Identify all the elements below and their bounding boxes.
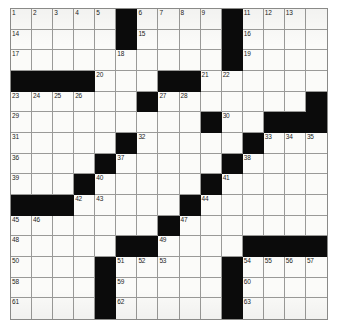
grid-open-cell[interactable] [137, 298, 158, 319]
grid-open-cell[interactable] [137, 50, 158, 71]
grid-open-cell[interactable]: 8 [180, 9, 201, 30]
grid-open-cell[interactable] [137, 278, 158, 299]
grid-open-cell[interactable] [201, 154, 222, 175]
grid-open-cell[interactable] [158, 154, 179, 175]
grid-open-cell[interactable] [306, 50, 327, 71]
grid-open-cell[interactable] [201, 236, 222, 257]
grid-open-cell[interactable] [285, 278, 306, 299]
grid-open-cell[interactable] [285, 195, 306, 216]
grid-open-cell[interactable] [158, 30, 179, 51]
grid-open-cell[interactable] [74, 216, 95, 237]
grid-open-cell[interactable]: 53 [158, 257, 179, 278]
grid-open-cell[interactable] [264, 30, 285, 51]
grid-open-cell[interactable]: 56 [285, 257, 306, 278]
grid-open-cell[interactable] [306, 298, 327, 319]
grid-open-cell[interactable] [180, 30, 201, 51]
grid-open-cell[interactable] [158, 195, 179, 216]
grid-open-cell[interactable] [285, 30, 306, 51]
grid-open-cell[interactable] [306, 30, 327, 51]
grid-open-cell[interactable] [243, 71, 264, 92]
grid-open-cell[interactable] [116, 112, 137, 133]
grid-open-cell[interactable] [32, 154, 53, 175]
grid-open-cell[interactable]: 3 [53, 9, 74, 30]
grid-open-cell[interactable]: 7 [158, 9, 179, 30]
grid-open-cell[interactable] [243, 92, 264, 113]
grid-open-cell[interactable] [53, 298, 74, 319]
grid-open-cell[interactable]: 18 [116, 50, 137, 71]
grid-open-cell[interactable] [74, 50, 95, 71]
grid-open-cell[interactable]: 43 [95, 195, 116, 216]
grid-open-cell[interactable] [243, 112, 264, 133]
grid-open-cell[interactable]: 50 [11, 257, 32, 278]
grid-open-cell[interactable]: 29 [11, 112, 32, 133]
grid-open-cell[interactable] [180, 50, 201, 71]
grid-open-cell[interactable]: 36 [11, 154, 32, 175]
grid-open-cell[interactable] [201, 92, 222, 113]
grid-open-cell[interactable]: 42 [74, 195, 95, 216]
grid-open-cell[interactable]: 58 [11, 278, 32, 299]
grid-open-cell[interactable]: 63 [243, 298, 264, 319]
grid-open-cell[interactable] [53, 257, 74, 278]
grid-open-cell[interactable] [264, 154, 285, 175]
grid-open-cell[interactable]: 11 [243, 9, 264, 30]
grid-open-cell[interactable]: 20 [95, 71, 116, 92]
grid-open-cell[interactable] [264, 50, 285, 71]
grid-open-cell[interactable]: 51 [116, 257, 137, 278]
grid-open-cell[interactable] [32, 257, 53, 278]
grid-open-cell[interactable] [74, 30, 95, 51]
grid-open-cell[interactable]: 59 [116, 278, 137, 299]
grid-open-cell[interactable]: 55 [264, 257, 285, 278]
grid-open-cell[interactable] [32, 278, 53, 299]
grid-open-cell[interactable] [95, 216, 116, 237]
grid-open-cell[interactable] [32, 298, 53, 319]
grid-open-cell[interactable]: 40 [95, 174, 116, 195]
grid-open-cell[interactable]: 60 [243, 278, 264, 299]
grid-open-cell[interactable] [116, 174, 137, 195]
grid-open-cell[interactable] [116, 71, 137, 92]
grid-open-cell[interactable] [53, 30, 74, 51]
grid-open-cell[interactable] [222, 236, 243, 257]
grid-open-cell[interactable] [137, 112, 158, 133]
grid-open-cell[interactable]: 61 [11, 298, 32, 319]
grid-open-cell[interactable]: 28 [180, 92, 201, 113]
grid-open-cell[interactable] [201, 278, 222, 299]
crossword-grid[interactable]: 1234567891112131415161718192021222324252… [11, 9, 327, 319]
grid-open-cell[interactable] [116, 216, 137, 237]
grid-open-cell[interactable]: 16 [243, 30, 264, 51]
grid-open-cell[interactable] [222, 133, 243, 154]
grid-open-cell[interactable] [74, 257, 95, 278]
grid-open-cell[interactable] [201, 257, 222, 278]
grid-open-cell[interactable] [158, 174, 179, 195]
grid-open-cell[interactable] [222, 216, 243, 237]
grid-open-cell[interactable] [116, 92, 137, 113]
grid-open-cell[interactable] [264, 298, 285, 319]
grid-open-cell[interactable]: 2 [32, 9, 53, 30]
grid-open-cell[interactable] [53, 133, 74, 154]
grid-open-cell[interactable]: 38 [243, 154, 264, 175]
grid-open-cell[interactable] [116, 195, 137, 216]
grid-open-cell[interactable] [180, 112, 201, 133]
grid-open-cell[interactable] [306, 71, 327, 92]
grid-open-cell[interactable]: 24 [32, 92, 53, 113]
grid-open-cell[interactable] [32, 133, 53, 154]
grid-open-cell[interactable] [53, 236, 74, 257]
grid-open-cell[interactable]: 37 [116, 154, 137, 175]
grid-open-cell[interactable] [264, 71, 285, 92]
grid-open-cell[interactable] [201, 30, 222, 51]
grid-open-cell[interactable] [306, 154, 327, 175]
grid-open-cell[interactable]: 35 [306, 133, 327, 154]
grid-open-cell[interactable]: 39 [11, 174, 32, 195]
grid-open-cell[interactable]: 14 [11, 30, 32, 51]
grid-open-cell[interactable]: 12 [264, 9, 285, 30]
grid-open-cell[interactable] [32, 30, 53, 51]
grid-open-cell[interactable] [137, 216, 158, 237]
grid-open-cell[interactable]: 31 [11, 133, 32, 154]
grid-open-cell[interactable]: 23 [11, 92, 32, 113]
grid-open-cell[interactable]: 5 [95, 9, 116, 30]
grid-open-cell[interactable] [306, 195, 327, 216]
grid-open-cell[interactable] [158, 50, 179, 71]
grid-open-cell[interactable] [180, 298, 201, 319]
grid-open-cell[interactable] [32, 112, 53, 133]
grid-open-cell[interactable] [74, 236, 95, 257]
grid-open-cell[interactable]: 48 [11, 236, 32, 257]
